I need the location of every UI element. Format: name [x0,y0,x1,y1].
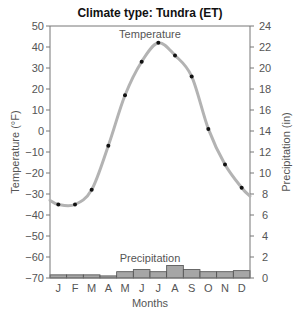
right-tick-label: 8 [262,188,268,200]
left-tick-label: 0 [38,125,44,137]
month-label: J [156,282,162,294]
right-tick-label: 4 [262,230,268,242]
month-label: S [188,282,195,294]
right-tick-label: 24 [259,20,271,32]
precipitation-bar [233,271,250,278]
temperature-point [140,60,144,64]
temperature-point [90,188,94,192]
temperature-point [223,163,227,167]
right-tick-label: 12 [259,146,271,158]
month-label: A [171,282,179,294]
temperature-point [190,74,194,78]
right-tick-label: 20 [259,62,271,74]
left-tick-label: −20 [25,167,44,179]
temperature-point [123,93,127,97]
precipitation-bar [167,265,184,278]
left-tick-label: 30 [32,62,44,74]
left-axis-label: Temperature (°F) [9,110,21,193]
left-tick-label: −40 [25,209,44,221]
temperature-point [240,186,244,190]
month-label: M [87,282,96,294]
left-tick-label: 10 [32,104,44,116]
right-tick-label: 14 [259,125,271,137]
month-label: N [221,282,229,294]
month-label: F [72,282,79,294]
climate-chart: Climate type: Tundra (ET) 50403020100−10… [0,0,299,314]
month-label: A [105,282,113,294]
precipitation-bar [200,272,217,278]
right-tick-label: 16 [259,104,271,116]
temperature-series-label: Temperature [119,28,181,40]
precipitation-bar [183,270,200,278]
month-label: J [56,282,62,294]
left-tick-label: −60 [25,251,44,263]
precipitation-bar [117,272,134,278]
right-tick-label: 6 [262,209,268,221]
temperature-point [106,144,110,148]
x-axis-ticks: JFMAMJJASOND [56,282,246,294]
right-tick-label: 2 [262,251,268,263]
month-label: D [238,282,246,294]
left-tick-label: −10 [25,146,44,158]
temperature-point [156,41,160,45]
right-tick-label: 18 [259,83,271,95]
left-tick-label: 40 [32,41,44,53]
chart-title: Climate type: Tundra (ET) [77,6,222,20]
precipitation-bar [150,272,167,278]
left-tick-label: 20 [32,83,44,95]
right-tick-label: 10 [259,167,271,179]
left-tick-label: −70 [25,272,44,284]
right-axis-ticks: 242220181614121086420 [250,20,271,284]
left-tick-label: −50 [25,230,44,242]
left-tick-label: 50 [32,20,44,32]
temperature-point [206,127,210,131]
month-label: J [139,282,145,294]
right-tick-label: 0 [262,272,268,284]
month-label: M [120,282,129,294]
left-tick-label: −30 [25,188,44,200]
temperature-point [73,203,77,207]
precipitation-bar [133,270,150,278]
precipitation-series-label: Precipitation [120,252,181,264]
precipitation-bars [50,265,250,278]
x-axis-label: Months [132,297,169,309]
temperature-points [56,41,243,207]
right-axis-label: Precipitation (in) [280,112,292,191]
precipitation-bar [217,272,234,278]
temperature-point [173,53,177,57]
left-axis-ticks: 50403020100−10−20−30−40−50−60−70 [25,20,50,284]
temperature-line [50,43,250,206]
month-label: O [204,282,213,294]
right-tick-label: 22 [259,41,271,53]
temperature-point [56,203,60,207]
